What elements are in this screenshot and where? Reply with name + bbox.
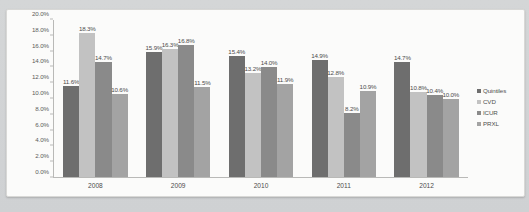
- legend-label: CVD: [483, 98, 496, 105]
- y-axis-tick-label: 18.0%: [32, 25, 49, 32]
- bar-value-label: 16.3%: [162, 41, 179, 48]
- bar[interactable]: 8.2%: [344, 113, 360, 177]
- bar-value-label: 16.8%: [178, 37, 195, 44]
- bar[interactable]: 16.3%: [162, 49, 178, 177]
- y-axis-tick-mark: [50, 34, 53, 35]
- bar[interactable]: 11.5%: [194, 87, 210, 177]
- chart-figure: 0.0%2.0%4.0%6.0%8.0%10.0%12.0%14.0%16.0%…: [0, 0, 529, 212]
- bar-slot: 15.9%: [146, 20, 162, 177]
- legend-item[interactable]: Quintiles: [477, 85, 523, 96]
- bar-slot: 10.8%: [410, 20, 426, 177]
- bar-value-label: 11.6%: [63, 78, 79, 85]
- bar-slot: 14.7%: [95, 20, 111, 177]
- y-axis-tick-label: 16.0%: [32, 41, 49, 48]
- bar-slot: 16.3%: [162, 20, 178, 177]
- bar[interactable]: 13.2%: [245, 73, 261, 177]
- bar-group: 14.7%10.8%10.4%10.0%2012: [385, 20, 468, 177]
- bar-value-label: 10.6%: [111, 86, 128, 93]
- bar-value-label: 15.4%: [228, 48, 245, 55]
- bar-value-label: 15.9%: [146, 44, 163, 51]
- bar[interactable]: 18.3%: [79, 33, 95, 177]
- bar[interactable]: 14.7%: [95, 62, 111, 177]
- bar-value-label: 10.4%: [426, 87, 443, 94]
- plot-area: 0.0%2.0%4.0%6.0%8.0%10.0%12.0%14.0%16.0%…: [53, 20, 468, 178]
- bar-slot: 10.6%: [112, 20, 128, 177]
- bar[interactable]: 10.0%: [443, 99, 459, 178]
- bar-group: 15.4%13.2%14.0%11.9%2010: [220, 20, 303, 177]
- legend-item[interactable]: ICUR: [477, 107, 523, 118]
- bar-value-label: 10.9%: [360, 83, 377, 90]
- bar-value-label: 14.7%: [95, 54, 112, 61]
- y-axis-tick-label: 2.0%: [35, 152, 49, 159]
- bar-slot: 18.3%: [79, 20, 95, 177]
- legend-swatch-icon: [477, 100, 481, 104]
- bar[interactable]: 11.6%: [63, 86, 79, 177]
- y-axis-tick-mark: [50, 19, 53, 20]
- bar[interactable]: 15.9%: [146, 52, 162, 177]
- bar-group-bars: 15.4%13.2%14.0%11.9%: [229, 20, 294, 177]
- bar-value-label: 8.2%: [345, 105, 359, 112]
- legend-label: PRXL: [483, 120, 499, 127]
- bar-slot: 14.0%: [261, 20, 277, 177]
- y-axis-tick-label: 4.0%: [35, 136, 49, 143]
- bar[interactable]: 14.9%: [312, 60, 328, 177]
- bar-slot: 14.7%: [394, 20, 410, 177]
- bar-value-label: 10.0%: [442, 91, 459, 98]
- bar[interactable]: 14.0%: [261, 67, 277, 177]
- bar-slot: 12.8%: [328, 20, 344, 177]
- x-axis-tick-label: 2012: [419, 182, 434, 189]
- bar-value-label: 10.8%: [410, 84, 427, 91]
- bar-group: 15.9%16.3%16.8%11.5%2009: [137, 20, 220, 177]
- y-axis-tick-mark: [50, 98, 53, 99]
- bar-value-label: 13.2%: [245, 65, 262, 72]
- legend-swatch-icon: [477, 89, 481, 93]
- bar[interactable]: 12.8%: [328, 77, 344, 177]
- bar[interactable]: 10.6%: [112, 94, 128, 177]
- bar[interactable]: 10.8%: [410, 92, 426, 177]
- bar-value-label: 14.7%: [394, 54, 411, 61]
- bar-slot: 16.8%: [178, 20, 194, 177]
- bar[interactable]: 10.9%: [360, 91, 376, 177]
- bar-slot: 11.9%: [277, 20, 293, 177]
- bar-group: 11.6%18.3%14.7%10.6%2008: [54, 20, 137, 177]
- bar-slot: 8.2%: [344, 20, 360, 177]
- bar[interactable]: 15.4%: [229, 56, 245, 177]
- y-axis-tick-label: 0.0%: [35, 168, 49, 175]
- bar-value-label: 14.9%: [311, 52, 328, 59]
- bar-slot: 15.4%: [229, 20, 245, 177]
- y-axis-tick-label: 10.0%: [32, 89, 49, 96]
- y-axis-tick-mark: [50, 161, 53, 162]
- bar-value-label: 11.5%: [194, 79, 210, 86]
- y-axis-tick-mark: [50, 129, 53, 130]
- bar-slot: 10.4%: [427, 20, 443, 177]
- bar-value-label: 11.9%: [277, 76, 293, 83]
- bar-slot: 11.5%: [194, 20, 210, 177]
- y-axis-tick-mark: [50, 66, 53, 67]
- bar-value-label: 14.0%: [261, 59, 278, 66]
- y-axis-tick-mark: [50, 145, 53, 146]
- bar[interactable]: 16.8%: [178, 45, 194, 177]
- bar[interactable]: 14.7%: [394, 62, 410, 177]
- y-axis-tick-mark: [50, 113, 53, 114]
- legend-swatch-icon: [477, 111, 481, 115]
- chart-legend: QuintilesCVDICURPRXL: [477, 85, 523, 129]
- y-axis-tick-label: 6.0%: [35, 120, 49, 127]
- legend-swatch-icon: [477, 122, 481, 126]
- bar[interactable]: 11.9%: [277, 84, 293, 177]
- legend-label: ICUR: [483, 109, 498, 116]
- legend-item[interactable]: PRXL: [477, 118, 523, 129]
- bar-groups: 11.6%18.3%14.7%10.6%200815.9%16.3%16.8%1…: [54, 20, 468, 177]
- bar-group-bars: 14.7%10.8%10.4%10.0%: [394, 20, 459, 177]
- y-axis-tick-label: 8.0%: [35, 104, 49, 111]
- y-axis-tick-label: 14.0%: [32, 57, 49, 64]
- bar-group: 14.9%12.8%8.2%10.9%2011: [302, 20, 385, 177]
- bar[interactable]: 10.4%: [427, 95, 443, 177]
- bar-group-bars: 11.6%18.3%14.7%10.6%: [63, 20, 128, 177]
- bar-value-label: 18.3%: [79, 25, 96, 32]
- bar-slot: 10.0%: [443, 20, 459, 177]
- x-axis-tick-label: 2009: [171, 182, 186, 189]
- y-axis-tick-mark: [50, 82, 53, 83]
- x-axis-tick-label: 2010: [254, 182, 269, 189]
- legend-label: Quintiles: [483, 87, 506, 94]
- legend-item[interactable]: CVD: [477, 96, 523, 107]
